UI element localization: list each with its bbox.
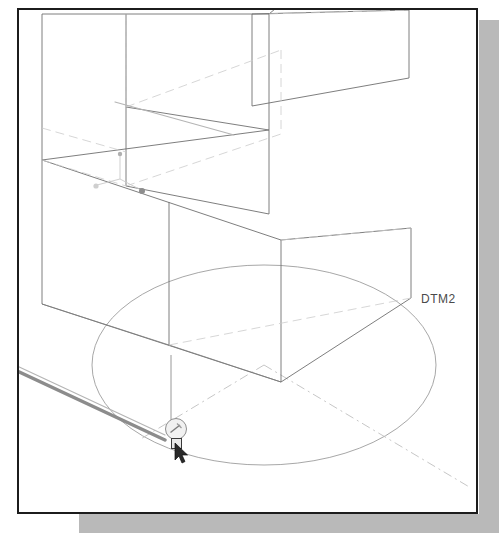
snap-point-icon[interactable]: [165, 418, 187, 440]
model-step-edges: [126, 107, 269, 214]
mouse-arrow-cursor-icon: [174, 443, 190, 465]
highlighted-edge[interactable]: [19, 102, 234, 440]
cad-screenshot: .vis { fill:none; stroke:#6f6f6f; stroke…: [0, 0, 499, 533]
datum-plane-dtm2[interactable]: [92, 265, 471, 488]
csys-axis-y-tip: [139, 188, 145, 194]
csys-triad-icon[interactable]: [93, 152, 145, 194]
model-lower-slab[interactable]: [42, 160, 411, 382]
datum-centerline-b: [139, 365, 264, 440]
model-upper-block[interactable]: [42, 10, 409, 160]
model-wireframe-canvas[interactable]: .vis { fill:none; stroke:#6f6f6f; stroke…: [19, 10, 476, 512]
snap-point-glyph: [166, 419, 186, 439]
datum-plane-label-dtm2[interactable]: DTM2: [421, 292, 456, 306]
csys-axis-x-tip: [93, 183, 98, 188]
datum-centerline-a: [264, 365, 471, 488]
graphics-viewport[interactable]: .vis { fill:none; stroke:#6f6f6f; stroke…: [17, 8, 478, 514]
window-shadow-bottom: [79, 514, 499, 533]
csys-axis-z-tip: [118, 152, 122, 156]
window-shadow-right: [479, 20, 499, 533]
model-hidden-edges: [42, 10, 411, 345]
